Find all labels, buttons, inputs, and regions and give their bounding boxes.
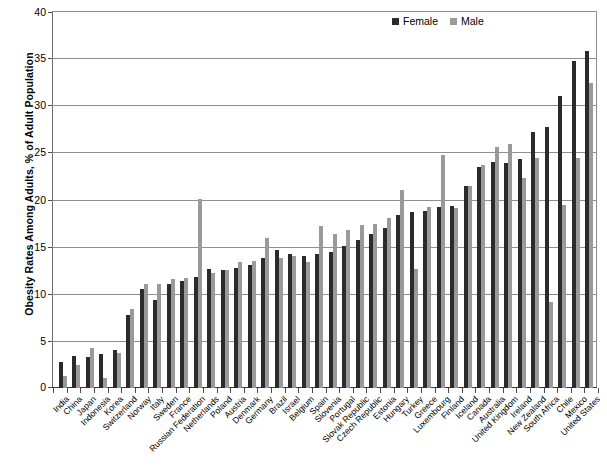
bar-male [468,186,472,388]
y-axis-title: Obesity Rates Among Adults, % of Adult P… [23,34,35,334]
y-tick-mark [48,247,52,248]
y-tick-mark [48,387,52,388]
bar-group [542,11,556,388]
x-tick-mark [257,388,258,393]
x-tick-mark [53,388,54,393]
bar-group [178,11,192,388]
bar-male [157,284,161,388]
bar-series-container [53,11,597,388]
bar-group [394,11,408,388]
bar-male [400,190,404,388]
bar-group [191,11,205,388]
bar-group [272,11,286,388]
x-tick-mark [557,388,558,393]
x-tick-mark [67,388,68,393]
bar-male [481,165,485,388]
y-tick-mark [48,58,52,59]
bar-group [259,11,273,388]
x-tick-mark [162,388,163,393]
bar-male [387,218,391,388]
x-tick-mark [148,388,149,393]
y-tick-mark [48,341,52,342]
bar-group [475,11,489,388]
legend: Female Male [392,15,484,27]
obesity-rates-bar-chart: Obesity Rates Among Adults, % of Adult P… [0,0,607,467]
x-tick-mark [435,388,436,393]
legend-entry-female: Female [392,15,438,27]
x-tick-mark [176,388,177,393]
bar-group [448,11,462,388]
x-tick-mark [312,388,313,393]
bar-male [562,205,566,388]
bar-group [569,11,583,388]
bar-male [225,270,229,388]
bar-group [515,11,529,388]
x-tick-mark [339,388,340,393]
y-tick-label: 35 [34,52,46,64]
x-tick-mark [271,388,272,393]
y-tick-mark [48,105,52,106]
bar-male [103,378,107,388]
bar-group [205,11,219,388]
x-axis-labels: IndiaChinaJapanIndonesiaKoreaSwitzerland… [53,394,598,467]
bar-group [367,11,381,388]
bar-male [292,256,296,388]
bar-group [218,11,232,388]
bar-group [137,11,151,388]
bar-group [583,11,597,388]
x-tick-mark [462,388,463,393]
bar-male [346,230,350,388]
bar-male [535,158,539,388]
bar-group [313,11,327,388]
bar-group [434,11,448,388]
y-tick-mark [48,12,52,13]
bar-male [576,158,580,388]
x-tick-mark [121,388,122,393]
bar-male [427,207,431,388]
bar-male [414,269,418,388]
x-tick-mark [544,388,545,393]
y-tick-label: 40 [34,6,46,18]
bar-group [124,11,138,388]
x-tick-mark [380,388,381,393]
bar-male [117,353,121,388]
legend-swatch-female-icon [392,18,399,25]
bar-male [441,155,445,388]
x-tick-mark [421,388,422,393]
y-tick-mark [48,200,52,201]
bar-group [340,11,354,388]
x-tick-mark [353,388,354,393]
bar-male [171,279,175,388]
y-tick-mark [48,294,52,295]
bar-male [63,376,67,388]
bar-male [184,278,188,388]
x-tick-mark [94,388,95,393]
legend-entry-male: Male [450,15,484,27]
bar-male [76,365,80,388]
x-tick-mark [448,388,449,393]
y-tick-label: 5 [40,335,46,347]
y-tick-label: 20 [34,194,46,206]
bar-group [407,11,421,388]
x-tick-mark [244,388,245,393]
x-tick-mark [203,388,204,393]
x-tick-mark [80,388,81,393]
x-tick-mark [407,388,408,393]
x-tick-mark [366,388,367,393]
x-tick-mark [217,388,218,393]
x-tick-mark [475,388,476,393]
bar-male [198,199,202,388]
bar-group [529,11,543,388]
bar-group [164,11,178,388]
bar-group [326,11,340,388]
bar-male [130,309,134,388]
x-tick-mark [598,388,599,393]
bar-male [549,302,553,388]
bar-group [70,11,84,388]
bar-group [83,11,97,388]
bar-group [556,11,570,388]
bar-group [97,11,111,388]
bar-male [90,348,94,388]
bar-group [421,11,435,388]
bar-group [110,11,124,388]
